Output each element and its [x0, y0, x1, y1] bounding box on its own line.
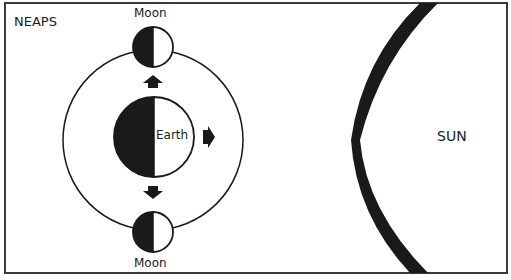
- moon-bottom-icon: [133, 212, 173, 252]
- earth-label: Earth: [156, 128, 188, 142]
- sun-label: SUN: [437, 128, 467, 144]
- neaps-diagram: [0, 0, 511, 280]
- moon-top-icon: [133, 27, 173, 67]
- sun-edge-icon: [351, 3, 438, 273]
- moon-top-label: Moon: [134, 6, 167, 20]
- arrow-down-icon: [143, 186, 163, 199]
- diagram-frame: [5, 3, 507, 273]
- diagram-title: NEAPS: [14, 14, 57, 29]
- moon-bottom-label: Moon: [134, 256, 167, 270]
- arrow-up-icon: [143, 75, 163, 88]
- arrow-right-icon: [203, 126, 215, 148]
